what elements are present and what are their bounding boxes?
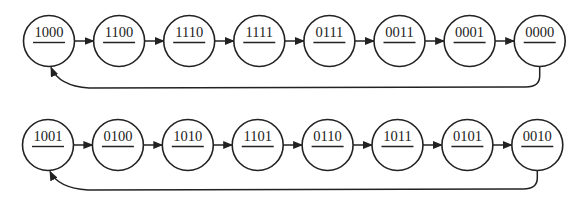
feedback-edge bbox=[50, 171, 537, 191]
state-label: 0111 bbox=[315, 24, 343, 40]
state-node: 0111 bbox=[304, 16, 355, 67]
state-label: 1100 bbox=[105, 24, 133, 40]
state-label: 1010 bbox=[173, 128, 202, 144]
state-label: 1011 bbox=[383, 128, 411, 144]
state-node: 1010 bbox=[162, 120, 213, 171]
state-label: 1110 bbox=[175, 24, 203, 40]
state-label: 1101 bbox=[243, 128, 271, 144]
state-label: 0011 bbox=[385, 24, 413, 40]
state-label: 0000 bbox=[525, 24, 554, 40]
state-node: 1101 bbox=[232, 120, 283, 171]
state-node: 0011 bbox=[374, 16, 425, 67]
state-label: 1001 bbox=[34, 128, 63, 144]
state-cycle-2: 10010100101011010110101101010010 bbox=[23, 120, 563, 191]
state-node: 1000 bbox=[24, 16, 75, 67]
state-node: 0000 bbox=[514, 16, 565, 67]
state-node: 0101 bbox=[442, 120, 493, 171]
state-node: 0001 bbox=[444, 16, 495, 67]
state-label: 1000 bbox=[35, 24, 64, 40]
state-label: 0010 bbox=[523, 128, 552, 144]
state-cycle-1: 10001100111011110111001100010000 bbox=[24, 16, 566, 89]
state-node: 0010 bbox=[512, 120, 563, 171]
state-node: 1110 bbox=[164, 16, 215, 67]
state-node: 0110 bbox=[302, 120, 353, 171]
state-label: 0001 bbox=[455, 24, 484, 40]
state-node: 0100 bbox=[92, 120, 143, 171]
state-diagram: 10001100111011110111001100010000 1001010… bbox=[0, 0, 587, 203]
state-label: 0100 bbox=[103, 128, 132, 144]
state-label: 0101 bbox=[453, 128, 482, 144]
state-node: 1100 bbox=[94, 16, 145, 67]
state-node: 1111 bbox=[234, 16, 285, 67]
state-label: 0110 bbox=[313, 128, 341, 144]
state-node: 1011 bbox=[372, 120, 423, 171]
state-label: 1111 bbox=[246, 24, 273, 40]
feedback-edge bbox=[51, 67, 540, 89]
state-node: 1001 bbox=[23, 120, 74, 171]
